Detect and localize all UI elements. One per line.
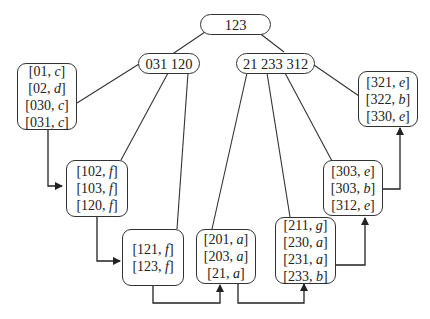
root-node-label: 123 [225, 17, 247, 33]
leaf-entry: [230, a] [283, 234, 327, 251]
leaf-entry: [030, c] [25, 97, 69, 114]
leaf-node-6: [303, e] [303, b] [312, e] [323, 160, 383, 216]
leaf-node-2: [102, f] [103, f] [120, f] [66, 160, 128, 217]
leaf-entry: [21, a] [207, 265, 244, 282]
leaf-entry: [321, e] [366, 74, 410, 91]
leaf-entry: [233, b] [283, 268, 327, 285]
leaf-node-1: [01, c] [02, d] [030, c] [031, c] [17, 63, 77, 130]
leaf-entry: [303, b] [331, 180, 375, 197]
leaf-entry: [02, d] [28, 80, 65, 97]
leaf-entry: [102, f] [76, 163, 117, 180]
inner-node-left-label: 031 120 [145, 56, 192, 72]
btree-diagram: 123 031 120 21 233 312 [01, c] [02, d] [… [0, 0, 430, 319]
leaf-node-7: [321, e] [322, b] [330, e] [358, 71, 418, 127]
leaf-entry: [01, c] [29, 63, 66, 80]
leaf-entry: [231, a] [283, 251, 327, 268]
inner-node-right-label: 21 233 312 [243, 56, 308, 72]
leaf-node-4: [201, a] [203, a] [21, a] [196, 229, 256, 284]
inner-node-right: 21 233 312 [236, 53, 315, 74]
leaf-entry: [330, e] [366, 108, 410, 125]
leaf-entry: [121, f] [132, 241, 173, 258]
leaf-entry: [031, c] [25, 114, 69, 131]
root-node: 123 [200, 14, 271, 35]
leaf-entry: [123, f] [132, 258, 173, 275]
leaf-entry: [120, f] [76, 197, 117, 214]
leaf-entry: [201, a] [204, 231, 248, 248]
leaf-entry: [203, a] [204, 248, 248, 265]
inner-node-left: 031 120 [138, 53, 200, 74]
leaf-entry: [322, b] [366, 91, 410, 108]
leaf-node-3: [121, f] [123, f] [122, 229, 184, 286]
leaf-entry: [312, e] [331, 197, 375, 214]
leaf-entry: [103, f] [76, 180, 117, 197]
leaf-node-5: [211, g] [230, a] [231, a] [233, b] [275, 217, 336, 284]
leaf-entry: [211, g] [284, 217, 328, 234]
leaf-entry: [303, e] [331, 163, 375, 180]
